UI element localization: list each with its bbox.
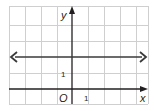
horizontal-line — [11, 52, 146, 62]
coordinate-plane: y x O 1 1 — [0, 0, 154, 111]
x-axis-label: x — [139, 92, 146, 104]
y-axis-arrow-icon — [69, 6, 75, 14]
x-axis — [9, 86, 148, 92]
x-tick-label: 1 — [84, 94, 89, 103]
y-tick-label: 1 — [61, 70, 66, 79]
grid — [9, 6, 149, 105]
y-axis-label: y — [60, 9, 68, 21]
origin-label: O — [59, 92, 68, 104]
